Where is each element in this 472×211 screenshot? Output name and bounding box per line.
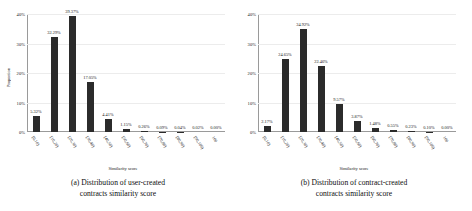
bar[interactable] xyxy=(87,82,94,132)
x-tick-label: [20,30) xyxy=(298,135,309,148)
bar[interactable] xyxy=(123,129,130,132)
x-tick-label: [60,70) xyxy=(139,135,150,148)
bar-slot[interactable]: 22.46% xyxy=(312,14,330,132)
bar-slot[interactable]: 0.00% xyxy=(207,14,225,132)
x-tick-label: [50,60) xyxy=(121,135,132,148)
caption-a-line2: contracts similarity score xyxy=(0,188,236,199)
bar-value-label: 0.00% xyxy=(210,126,221,130)
bar-value-label: 0.00% xyxy=(441,126,452,130)
bar-slot[interactable]: 32.29% xyxy=(45,14,63,132)
bar[interactable] xyxy=(300,29,307,132)
caption-a-line1: (a) Distribution of user-created xyxy=(0,177,236,188)
y-tick-label: 0% xyxy=(250,130,256,135)
bar-series-b: 2.17%24.65%34.92%22.46%9.57%3.87%1.48%0.… xyxy=(258,14,456,132)
x-tick-label: [0,10) xyxy=(262,135,272,146)
x-tick-label: [90,100) xyxy=(193,135,205,150)
x-tick-label: [10,20) xyxy=(280,135,291,148)
bar-value-label: 17.05% xyxy=(83,76,97,80)
x-tick-label: [0,10) xyxy=(31,135,41,146)
bar[interactable] xyxy=(105,119,112,132)
chart-panel-b: 0%10%20%30%40% 2.17%24.65%34.92%22.46%9.… xyxy=(236,0,472,211)
bar-value-label: 0.04% xyxy=(174,126,185,130)
bar[interactable] xyxy=(336,104,343,132)
bar-value-label: 24.65% xyxy=(278,53,292,57)
x-tick-label: [70,80) xyxy=(157,135,168,148)
bar-slot[interactable]: 0.09% xyxy=(153,14,171,132)
bar-value-label: 3.87% xyxy=(351,115,362,119)
chart-panel-a: Proportion 0%10%20%30%40% 5.32%32.29%39.… xyxy=(0,0,236,211)
bar-slot[interactable]: 5.32% xyxy=(27,14,45,132)
x-tick-label: [30,40) xyxy=(316,135,327,148)
y-tick-label: 30% xyxy=(17,41,25,46)
bar[interactable] xyxy=(141,131,148,132)
y-tick-label: 20% xyxy=(17,71,25,76)
caption-a: (a) Distribution of user-created contrac… xyxy=(0,177,236,199)
x-axis-label-a: Similarity score xyxy=(0,166,236,171)
y-tick-label: 30% xyxy=(248,41,256,46)
bar[interactable] xyxy=(51,37,58,132)
caption-b: (b) Distribution of contract-created con… xyxy=(236,177,472,199)
bar-slot[interactable]: 0.00% xyxy=(438,14,456,132)
caption-b-line1: (b) Distribution of contract-created xyxy=(236,177,472,188)
bar-slot[interactable]: 1.48% xyxy=(366,14,384,132)
bar[interactable] xyxy=(408,131,415,132)
bar-value-label: 0.02% xyxy=(192,126,203,130)
bar-slot[interactable]: 1.15% xyxy=(117,14,135,132)
y-tick-label: 10% xyxy=(17,100,25,105)
bar-slot[interactable]: 2.17% xyxy=(258,14,276,132)
bar-slot[interactable]: 0.02% xyxy=(189,14,207,132)
figure-container: Proportion 0%10%20%30%40% 5.32%32.29%39.… xyxy=(0,0,472,211)
bar-value-label: 32.29% xyxy=(47,31,61,35)
bar-slot[interactable]: 0.04% xyxy=(171,14,189,132)
bar-value-label: 2.17% xyxy=(261,120,272,124)
bar[interactable] xyxy=(354,121,361,132)
bar-slot[interactable]: 0.10% xyxy=(420,14,438,132)
bar-value-label: 5.32% xyxy=(30,110,41,114)
plot-area-a: 0%10%20%30%40% 5.32%32.29%39.37%17.05%4.… xyxy=(27,14,225,132)
bar[interactable] xyxy=(33,116,40,132)
bar[interactable] xyxy=(318,66,325,132)
bar-value-label: 0.09% xyxy=(156,126,167,130)
x-axis-label-b: Similarity score xyxy=(236,166,472,171)
x-tick-label: [20,30) xyxy=(67,135,78,148)
x-tick-label: 100 xyxy=(442,135,450,143)
bar-value-label: 0.10% xyxy=(423,126,434,130)
bar-series-a: 5.32%32.29%39.37%17.05%4.41%1.15%0.26%0.… xyxy=(27,14,225,132)
bar-slot[interactable]: 0.55% xyxy=(384,14,402,132)
bar-slot[interactable]: 4.41% xyxy=(99,14,117,132)
bar-slot[interactable]: 9.57% xyxy=(330,14,348,132)
bar-value-label: 1.15% xyxy=(120,123,131,127)
bar[interactable] xyxy=(264,126,271,132)
bar[interactable] xyxy=(372,128,379,132)
bar-value-label: 39.37% xyxy=(65,10,79,14)
bar-value-label: 0.55% xyxy=(387,124,398,128)
x-tick-label: [50,60) xyxy=(352,135,363,148)
bar-value-label: 1.48% xyxy=(369,122,380,126)
bar[interactable] xyxy=(69,16,76,132)
x-tick-label: [80,90) xyxy=(406,135,417,148)
bar-slot[interactable]: 0.23% xyxy=(402,14,420,132)
y-axis-label-a: Proportion xyxy=(3,48,13,108)
y-tick-label: 40% xyxy=(248,12,256,17)
bar[interactable] xyxy=(390,130,397,132)
bar-value-label: 0.23% xyxy=(405,125,416,129)
caption-b-line2: contracts similarity score xyxy=(236,188,472,199)
bar-slot[interactable]: 17.05% xyxy=(81,14,99,132)
bar[interactable] xyxy=(282,59,289,132)
bar-slot[interactable]: 24.65% xyxy=(276,14,294,132)
bar-slot[interactable]: 34.92% xyxy=(294,14,312,132)
y-tick-label: 20% xyxy=(248,71,256,76)
bar-value-label: 0.26% xyxy=(138,125,149,129)
x-tick-label: [60,70) xyxy=(370,135,381,148)
y-tick-label: 0% xyxy=(19,130,25,135)
y-tick-label: 40% xyxy=(17,12,25,17)
bar-slot[interactable]: 39.37% xyxy=(63,14,81,132)
plot-area-b: 0%10%20%30%40% 2.17%24.65%34.92%22.46%9.… xyxy=(258,14,456,132)
x-tick-label: [40,50) xyxy=(103,135,114,148)
x-tick-label: [80,90) xyxy=(175,135,186,148)
bar-slot[interactable]: 0.26% xyxy=(135,14,153,132)
x-tick-label: [30,40) xyxy=(85,135,96,148)
bar-slot[interactable]: 3.87% xyxy=(348,14,366,132)
x-tick-label: [10,20) xyxy=(49,135,60,148)
x-tick-label: 100 xyxy=(211,135,219,143)
